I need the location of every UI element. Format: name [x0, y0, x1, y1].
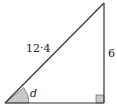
- right-angle-marker: [96, 95, 104, 103]
- angle-label: d: [30, 87, 37, 100]
- hypotenuse-side: [5, 3, 104, 103]
- hypotenuse-label: 12·4: [26, 42, 51, 55]
- right-triangle-diagram: 12·4 6 d: [0, 0, 117, 111]
- side-length-label: 6: [108, 47, 115, 60]
- angle-d-marker: [5, 88, 29, 103]
